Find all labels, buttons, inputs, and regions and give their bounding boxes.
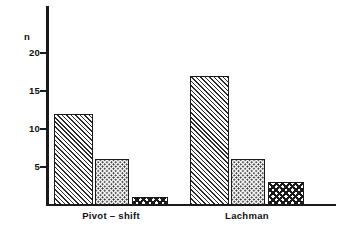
pivot-shift-bar-1 xyxy=(54,114,93,205)
pivot-shift-bar-2 xyxy=(95,159,129,205)
y-axis-line xyxy=(46,6,49,206)
pivot-shift-bar-3 xyxy=(132,197,168,205)
group-label-pivot-shift: Pivot – shift xyxy=(54,210,168,221)
y-axis-ticks: 5101520 xyxy=(0,0,40,236)
y-tick-label-15: 15 xyxy=(18,86,40,96)
y-tick-mark-20 xyxy=(40,52,47,54)
y-tick-label-5: 5 xyxy=(18,162,40,172)
y-tick-mark-5 xyxy=(40,166,47,168)
y-tick-mark-15 xyxy=(40,90,47,92)
y-tick-label-20: 20 xyxy=(18,48,40,58)
y-tick-label-10: 10 xyxy=(18,124,40,134)
lachman-bar-1 xyxy=(190,76,229,205)
lachman-bar-3 xyxy=(268,182,304,205)
y-tick-mark-10 xyxy=(40,128,47,130)
bar-chart-figure: n 5101520 Pivot – shift Lachman xyxy=(0,0,347,236)
group-label-lachman: Lachman xyxy=(190,210,304,221)
lachman-bar-2 xyxy=(231,159,265,205)
